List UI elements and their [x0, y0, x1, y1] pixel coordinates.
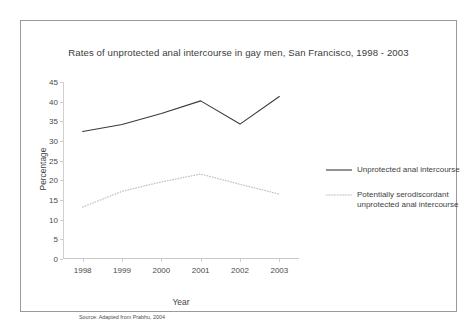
legend: Unprotected anal intercourse Potentially…	[326, 165, 474, 225]
y-tick-label: 10	[49, 215, 58, 224]
y-tick-label: 20	[49, 176, 58, 185]
y-tick-label: 25	[49, 156, 58, 165]
y-tick-mark	[60, 259, 63, 260]
y-tick-label: 15	[49, 196, 58, 205]
figure-frame: Rates of unprotected anal intercourse in…	[20, 20, 457, 312]
x-tick-mark	[161, 259, 162, 262]
legend-item-unprotected-anal-intercourse: Unprotected anal intercourse	[326, 165, 474, 176]
x-axis-title: Year	[173, 297, 190, 307]
x-tick-mark	[240, 259, 241, 262]
legend-label-2-line2: unprotected anal intercourse	[357, 200, 458, 211]
legend-label-1-line1: Unprotected anal intercourse	[357, 165, 460, 176]
y-tick-label: 35	[49, 117, 58, 126]
legend-label-2-line1: Potentially serodiscordant	[357, 190, 458, 201]
legend-label-1: Unprotected anal intercourse	[357, 165, 460, 176]
y-tick-label: 45	[49, 78, 58, 87]
legend-dotted-line-icon	[326, 190, 352, 200]
plot-area: 051015202530354045 199819992000200120022…	[63, 82, 299, 259]
y-axis-title: Percentage	[38, 148, 48, 191]
x-tick-mark	[279, 259, 280, 262]
x-tick-mark	[201, 259, 202, 262]
y-tick-label: 30	[49, 137, 58, 146]
series-line-1	[83, 97, 280, 132]
legend-label-2: Potentially serodiscordant unprotected a…	[357, 190, 458, 211]
source-note: Source: Adapted from Prabhu, 2004	[79, 314, 165, 320]
legend-item-potentially-serodiscordant: Potentially serodiscordant unprotected a…	[326, 190, 474, 211]
series-line-2	[83, 174, 280, 207]
x-tick-label: 2001	[192, 266, 210, 275]
x-tick-label: 1999	[113, 266, 131, 275]
y-tick-label: 0	[54, 255, 58, 264]
x-tick-label: 2003	[270, 266, 288, 275]
x-tick-label: 2000	[152, 266, 170, 275]
y-tick-label: 5	[54, 235, 58, 244]
legend-solid-line-icon	[326, 165, 352, 175]
x-tick-label: 2002	[231, 266, 249, 275]
x-tick-label: 1998	[74, 266, 92, 275]
chart-title: Rates of unprotected anal intercourse in…	[21, 47, 456, 58]
x-tick-mark	[83, 259, 84, 262]
series-plot	[63, 82, 299, 259]
x-tick-mark	[122, 259, 123, 262]
y-tick-label: 40	[49, 97, 58, 106]
